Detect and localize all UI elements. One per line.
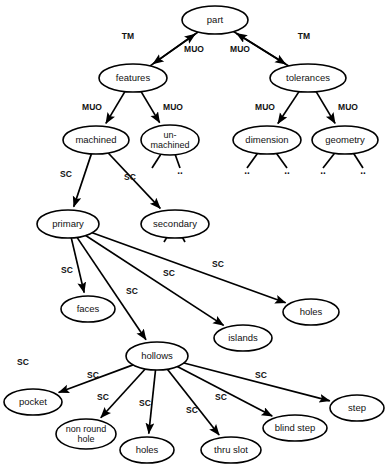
node-pocket[interactable]: pocket [4,389,62,415]
edge-label-tolerances-to-dimension: MUO [255,102,275,112]
node-blindstep[interactable]: blind step [263,415,327,441]
edge-label-hollows-to-holes_bot: SC [139,398,151,408]
node-thruslot[interactable]: thru slot [201,437,261,463]
edge-label-machined-to-secondary: SC [124,172,136,182]
edge-label-tolerances-to-part: TM [298,31,310,41]
node-label-dimension: dimension [245,134,288,145]
node-geometry[interactable]: geometry [312,126,378,154]
edge-label-features-to-unmachined: MUO [163,102,183,112]
node-label-tolerances: tolerances [286,72,330,83]
ellipsis-mark: .. [177,165,183,176]
node-label-faces: faces [77,303,100,314]
edge-label-machined-to-primary: SC [60,169,72,179]
edge-label-hollows-to-blindstep: SC [215,392,227,402]
ellipsis-mark: .. [320,165,326,176]
taxonomy-diagram: .......... partfeaturestolerancesmachine… [0,0,390,475]
node-label-geometry: geometry [325,134,365,145]
node-features[interactable]: features [99,64,167,92]
edge-label-features-to-part: TM [122,31,134,41]
edge-label-tolerances-to-geometry: MUO [338,102,358,112]
edge-machined-to-primary [74,154,92,207]
leaf-stub-unmachined-0 [152,154,161,168]
edge-label-primary-to-faces: SC [61,265,73,275]
node-secondary[interactable]: secondary [141,210,209,238]
node-label-part: part [207,14,224,25]
node-label-pocket: pocket [19,396,47,407]
edge-label-primary-to-hollows: SC [126,286,138,296]
edge-label-hollows-to-nonround: SC [97,392,109,402]
ellipsis-mark: .. [244,165,250,176]
node-primary[interactable]: primary [37,210,99,238]
edge-label-part-to-tolerances: MUO [230,44,250,54]
edge-label-hollows-to-pocket: SC [87,370,99,380]
loose-labels-layer: SC [17,357,29,367]
edge-features-to-machined [106,92,125,124]
edge-hollows-to-thruslot [167,369,219,435]
node-label-holes_right: holes [300,306,323,317]
node-nonround[interactable]: non roundhole [56,419,116,449]
node-label-step: step [348,402,366,413]
edge-features-to-unmachined [141,92,160,123]
node-step[interactable]: step [330,395,384,421]
edge-label-hollows-to-thruslot: SC [186,405,198,415]
edge-label-hollows-to-step: SC [255,370,267,380]
ellipsis-mark: .. [360,165,366,176]
node-islands[interactable]: islands [214,325,272,351]
edge-label-part-to-features: MUO [184,44,204,54]
node-label-blindstep: blind step [275,422,316,433]
nodes-layer: partfeaturestolerancesmachinedun-machine… [4,6,384,463]
node-faces[interactable]: faces [61,296,115,322]
node-label-thruslot: thru slot [214,444,248,455]
node-part[interactable]: part [182,6,248,34]
node-label-hollows: hollows [141,350,173,361]
edge-tolerances-to-geometry [316,92,335,124]
node-holes_right[interactable]: holes [283,299,339,325]
node-holes_bot[interactable]: holes [120,437,174,463]
diagram-canvas: .......... partfeaturestolerancesmachine… [0,0,390,475]
edge-label-features-to-machined: MUO [82,102,102,112]
ellipsis-mark: .. [284,165,290,176]
node-dimension[interactable]: dimension [233,126,301,154]
node-label-primary: primary [52,218,84,229]
node-unmachined[interactable]: un-machined [141,125,199,155]
node-tolerances[interactable]: tolerances [270,64,346,92]
edge-label-primary-to-holes_right: SC [212,259,224,269]
edge-label-primary-to-islands: SC [163,268,175,278]
node-label-machined: machined [75,134,116,145]
node-label-features: features [116,72,151,83]
node-hollows[interactable]: hollows [126,342,188,370]
node-machined[interactable]: machined [63,126,129,154]
node-label-secondary: secondary [153,218,197,229]
node-label-islands: islands [228,332,258,343]
node-label-holes_bot: holes [136,444,159,455]
edge-primary-to-holes_right [92,233,285,303]
edge-tolerances-to-dimension [278,92,299,124]
loose-label-0: SC [17,357,29,367]
